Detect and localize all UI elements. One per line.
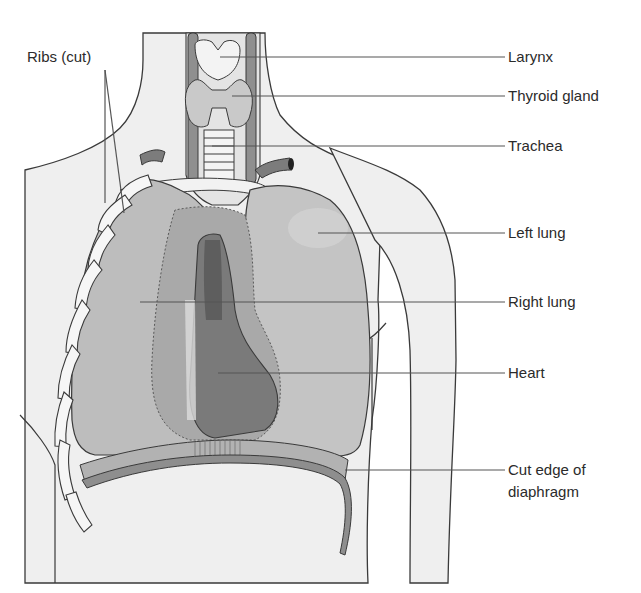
left-lung-highlight — [288, 208, 348, 248]
label-larynx: Larynx — [508, 48, 553, 66]
trachea-rings — [204, 130, 234, 180]
label-left-lung: Left lung — [508, 224, 566, 242]
label-diaphragm-line1: Cut edge of — [508, 461, 586, 479]
label-heart: Heart — [508, 364, 545, 382]
label-ribs: Ribs (cut) — [27, 48, 91, 66]
right-vessel-end — [288, 158, 294, 170]
label-right-lung: Right lung — [508, 293, 576, 311]
heart-dark-vessel — [204, 240, 222, 320]
label-trachea: Trachea — [508, 137, 562, 155]
label-thyroid-gland: Thyroid gland — [508, 87, 599, 105]
label-diaphragm-line2: diaphragm — [508, 483, 579, 501]
